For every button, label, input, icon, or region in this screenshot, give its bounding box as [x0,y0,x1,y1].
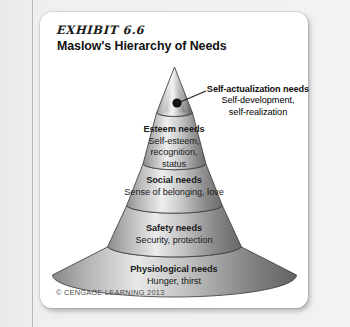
tier-esteem-line-3: status [124,159,224,171]
tier-label-social: Social needs Sense of belonging, love [94,175,254,198]
tier-safety-line-1: Security, protection [84,235,264,247]
self-actualization-callout: Self-actualization needs Self-developmen… [202,84,314,118]
exhibit-card: EXHIBIT 6.6 Maslow's Hierarchy of Needs [40,12,308,308]
tier-esteem-line-1: Self-esteem, [124,136,224,148]
tier-social-heading: Social needs [94,175,254,187]
tier-social-line-1: Sense of belonging, love [94,187,254,199]
tier-safety-heading: Safety needs [84,223,264,235]
tier-physiological-line-1: Hunger, thirst [74,276,274,288]
page-gutter-rule [32,0,33,327]
tier-label-safety: Safety needs Security, protection [84,223,264,246]
tier-esteem-line-2: recognition, [124,147,224,159]
tier-physiological-heading: Physiological needs [74,264,274,276]
self-actualization-dot-icon [172,98,181,107]
callout-heading: Self-actualization needs [202,84,314,95]
callout-line-1: Self-development, [202,95,314,106]
copyright-notice: © CENGAGE LEARNING 2013 [56,288,165,297]
tier-esteem-heading: Esteem needs [124,124,224,136]
callout-line-2: self-realization [202,107,314,118]
tier-label-physiological: Physiological needs Hunger, thirst [74,264,274,287]
tier-label-esteem: Esteem needs Self-esteem, recognition, s… [124,124,224,170]
